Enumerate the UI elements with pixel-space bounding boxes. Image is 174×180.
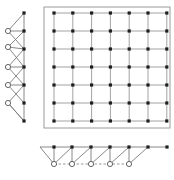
grid-node bbox=[52, 83, 55, 86]
grid-node bbox=[146, 83, 149, 86]
square-grid-graph bbox=[44, 7, 170, 128]
left-open-node bbox=[5, 100, 10, 105]
left-open-node bbox=[5, 82, 10, 87]
grid-node bbox=[128, 83, 131, 86]
grid-node bbox=[71, 65, 74, 68]
bottom-filled-node bbox=[52, 145, 55, 148]
grid-node bbox=[90, 119, 93, 122]
bottom-diagonal-edge bbox=[110, 147, 129, 164]
bottom-open-node bbox=[107, 161, 112, 166]
left-open-node bbox=[5, 64, 10, 69]
grid-node bbox=[109, 11, 112, 14]
grid-node bbox=[165, 11, 168, 14]
grid-node bbox=[71, 11, 74, 14]
bottom-diagonal-edge bbox=[129, 147, 148, 164]
grid-node bbox=[165, 119, 168, 122]
bottom-diagonal-edge bbox=[40, 147, 54, 164]
grid-node bbox=[165, 29, 168, 32]
grid-node bbox=[128, 11, 131, 14]
grid-node bbox=[90, 47, 93, 50]
grid-node bbox=[146, 29, 149, 32]
left-filled-node bbox=[22, 119, 25, 122]
grid-node bbox=[146, 119, 149, 122]
left-diagonal-edge bbox=[8, 13, 24, 31]
grid-node bbox=[90, 83, 93, 86]
grid-node bbox=[128, 47, 131, 50]
bottom-open-node bbox=[126, 161, 131, 166]
bottom-diagonal-edge bbox=[91, 147, 110, 164]
grid-node bbox=[128, 29, 131, 32]
grid-frame bbox=[44, 7, 170, 128]
grid-node bbox=[52, 29, 55, 32]
grid-node bbox=[128, 119, 131, 122]
bottom-filled-node bbox=[165, 145, 168, 148]
left-open-node bbox=[5, 28, 10, 33]
left-filled-node bbox=[22, 101, 25, 104]
left-filled-node bbox=[22, 47, 25, 50]
grid-node bbox=[165, 83, 168, 86]
left-diagonal-edge bbox=[8, 103, 24, 121]
bottom-filled-node bbox=[89, 145, 92, 148]
left-filled-node bbox=[22, 29, 25, 32]
grid-node bbox=[109, 83, 112, 86]
grid-node bbox=[128, 65, 131, 68]
left-open-node bbox=[5, 44, 10, 49]
grid-node bbox=[128, 101, 131, 104]
bottom-filled-node bbox=[70, 145, 73, 148]
left-vertical-chain bbox=[5, 11, 25, 122]
grid-node bbox=[90, 101, 93, 104]
bottom-filled-node bbox=[127, 145, 130, 148]
grid-node bbox=[52, 101, 55, 104]
bottom-open-node bbox=[51, 161, 56, 166]
bottom-diagonal-edge bbox=[54, 147, 72, 164]
grid-node bbox=[52, 47, 55, 50]
grid-node bbox=[146, 47, 149, 50]
bottom-diagonal-edge bbox=[72, 147, 91, 164]
grid-node bbox=[90, 65, 93, 68]
grid-node bbox=[71, 29, 74, 32]
lattice-diagram bbox=[0, 0, 174, 180]
bottom-open-node bbox=[69, 161, 74, 166]
left-filled-node bbox=[22, 11, 25, 14]
grid-node bbox=[165, 65, 168, 68]
bottom-horizontal-chain bbox=[40, 145, 169, 166]
grid-node bbox=[90, 11, 93, 14]
grid-node bbox=[52, 119, 55, 122]
grid-node bbox=[71, 119, 74, 122]
grid-node bbox=[109, 101, 112, 104]
bottom-filled-node bbox=[108, 145, 111, 148]
grid-node bbox=[165, 101, 168, 104]
grid-node bbox=[146, 65, 149, 68]
grid-node bbox=[90, 29, 93, 32]
grid-node bbox=[52, 65, 55, 68]
grid-node bbox=[71, 47, 74, 50]
grid-node bbox=[109, 65, 112, 68]
grid-node bbox=[109, 29, 112, 32]
grid-node bbox=[165, 47, 168, 50]
grid-node bbox=[146, 11, 149, 14]
left-filled-node bbox=[22, 83, 25, 86]
grid-node bbox=[71, 101, 74, 104]
grid-node bbox=[109, 119, 112, 122]
grid-node bbox=[71, 83, 74, 86]
bottom-filled-node bbox=[146, 145, 149, 148]
bottom-open-node bbox=[88, 161, 93, 166]
left-filled-node bbox=[22, 65, 25, 68]
grid-node bbox=[52, 11, 55, 14]
grid-node bbox=[109, 47, 112, 50]
grid-node bbox=[146, 101, 149, 104]
